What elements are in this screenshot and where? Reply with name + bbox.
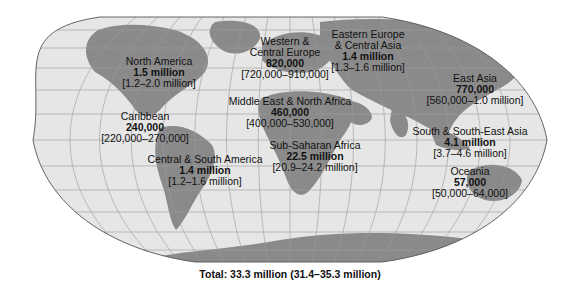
- label-middle-east-north-africa: Middle East & North Africa 460,000 [400,…: [220, 96, 360, 129]
- region-range: [1.2–1.6 million]: [130, 176, 280, 187]
- label-oceania: Oceania 57,000 [50,000–64,000]: [410, 166, 530, 199]
- label-south-south-east-asia: South & South-East Asia 4.1 million [3.7…: [400, 126, 540, 159]
- label-north-america: North America 1.5 million [1.2–2.0 milli…: [104, 56, 214, 89]
- label-sub-saharan-africa: Sub-Saharan Africa 22.5 million [20.9–24…: [250, 140, 380, 173]
- region-range: [400,000–530,000]: [220, 118, 360, 129]
- label-eastern-europe-central-asia: Eastern Europe & Central Asia 1.4 millio…: [313, 29, 423, 73]
- total-caption: Total: 33.3 million (31.4–35.3 million): [0, 268, 580, 280]
- region-range: [1.2–2.0 million]: [104, 78, 214, 89]
- region-range: [220,000–270,000]: [90, 133, 200, 144]
- region-range: [20.9–24.2 million]: [250, 162, 380, 173]
- region-range: [3.7–4.6 million]: [400, 148, 540, 159]
- region-range: [560,000–1.0 million]: [415, 95, 535, 106]
- label-east-asia: East Asia 770,000 [560,000–1.0 million]: [415, 73, 535, 106]
- region-range: [50,000–64,000]: [410, 188, 530, 199]
- region-range: [1.3–1.6 million]: [313, 62, 423, 73]
- label-caribbean: Caribbean 240,000 [220,000–270,000]: [90, 111, 200, 144]
